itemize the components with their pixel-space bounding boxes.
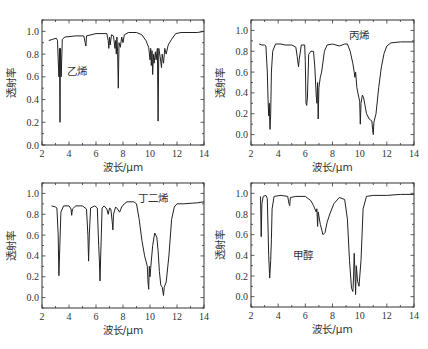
y-tick-label: 0.2 (27, 117, 40, 128)
plot-frame (42, 183, 204, 308)
plot-frame (251, 183, 414, 307)
x-tick-label: 2 (40, 148, 45, 159)
compound-label: 乙烯 (67, 65, 88, 77)
spectrum-curve (49, 31, 204, 122)
spectrum-curve (261, 194, 415, 294)
y-tick-label: 0.8 (236, 209, 249, 220)
spectrum-curve (259, 42, 414, 135)
tick-marks (251, 183, 414, 307)
y-tick-label: 0.2 (236, 271, 249, 282)
spectrum-panel-1: 0.00.20.40.60.81.0 2468101214 透射率 波长/μm … (210, 0, 424, 175)
y-tick-label: 0.6 (236, 67, 249, 78)
tick-marks (42, 20, 204, 145)
x-tick-label: 14 (199, 311, 209, 322)
y-tick-label: 0.0 (27, 140, 40, 151)
spectrum-panel-3: 0.00.20.40.60.81.0 2468101214 透射率 波长/μm … (210, 163, 424, 338)
y-tick-label: 1.0 (236, 188, 249, 199)
x-axis-title: 波长/μm (103, 324, 143, 336)
x-tick-label: 2 (249, 310, 254, 321)
x-tick-label: 10 (145, 148, 155, 159)
y-tick-label: 1.0 (27, 188, 40, 199)
x-tick-label: 8 (121, 148, 126, 159)
y-tick-label: 0.4 (236, 87, 249, 98)
x-tick-label: 6 (94, 148, 99, 159)
y-tick-label: 0.8 (27, 209, 40, 220)
x-tick-label: 10 (355, 148, 365, 159)
y-tick-label: 0.8 (27, 49, 40, 60)
x-tick-label: 12 (172, 148, 182, 159)
y-tick-label: 0.2 (236, 108, 249, 119)
y-tick-label: 0.6 (236, 229, 249, 240)
y-tick-label: 0.0 (236, 291, 249, 302)
x-tick-label: 4 (67, 148, 72, 159)
plot-frame (251, 20, 414, 145)
x-tick-label: 12 (172, 311, 182, 322)
x-tick-labels: 2468101214 (249, 148, 420, 159)
compound-label: 丙烯 (349, 29, 370, 41)
y-tick-label: 0.2 (27, 271, 40, 282)
y-tick-label: 0.8 (236, 46, 249, 57)
x-tick-label: 4 (67, 311, 72, 322)
compound-label: 甲醇 (293, 249, 314, 261)
x-tick-label: 10 (145, 311, 155, 322)
spectrum-panel-0: 0.00.20.40.60.81.0 2468101214 透射率 波长/μm … (0, 0, 214, 175)
tick-marks (42, 183, 204, 308)
y-axis-title: 透射率 (214, 230, 226, 260)
x-tick-labels: 2468101214 (40, 311, 210, 322)
x-tick-label: 4 (276, 310, 281, 321)
x-tick-label: 14 (409, 148, 419, 159)
x-tick-label: 2 (40, 311, 45, 322)
x-tick-label: 8 (121, 311, 126, 322)
y-tick-label: 0.6 (27, 71, 40, 82)
y-axis-title: 透射率 (5, 68, 17, 98)
y-axis-title: 透射率 (5, 231, 17, 261)
y-tick-labels: 0.00.20.40.60.81.0 (27, 188, 40, 303)
y-tick-label: 0.0 (236, 129, 249, 140)
y-tick-labels: 0.00.20.40.60.81.0 (27, 26, 40, 151)
spectrum-panel-2: 0.00.20.40.60.81.0 2468101214 透射率 波长/μm … (0, 163, 214, 338)
x-tick-label: 14 (409, 310, 419, 321)
y-tick-label: 0.6 (27, 230, 40, 241)
x-tick-labels: 2468101214 (40, 148, 210, 159)
plot-frame (42, 20, 204, 145)
x-tick-label: 2 (249, 148, 254, 159)
x-tick-label: 8 (330, 310, 335, 321)
x-tick-label: 12 (382, 310, 392, 321)
y-tick-labels: 0.00.20.40.60.81.0 (236, 25, 249, 140)
x-tick-label: 12 (382, 148, 392, 159)
spectrum-curve (52, 202, 205, 296)
y-tick-label: 0.4 (236, 250, 249, 261)
y-tick-label: 0.0 (27, 292, 40, 303)
x-tick-label: 6 (94, 311, 99, 322)
y-axis-title: 透射率 (214, 68, 226, 98)
x-axis-title: 波长/μm (312, 323, 352, 335)
y-tick-label: 1.0 (236, 25, 249, 36)
y-tick-label: 1.0 (27, 26, 40, 37)
x-tick-label: 6 (303, 310, 308, 321)
x-tick-label: 4 (276, 148, 281, 159)
y-tick-label: 0.4 (27, 94, 40, 105)
x-tick-labels: 2468101214 (249, 310, 420, 321)
x-tick-label: 6 (303, 148, 308, 159)
y-tick-labels: 0.00.20.40.60.81.0 (236, 188, 249, 302)
x-tick-label: 8 (330, 148, 335, 159)
x-tick-label: 10 (355, 310, 365, 321)
y-tick-label: 0.4 (27, 250, 40, 261)
tick-marks (251, 20, 414, 145)
compound-label: 丁二烯 (138, 192, 169, 204)
x-tick-label: 14 (199, 148, 209, 159)
